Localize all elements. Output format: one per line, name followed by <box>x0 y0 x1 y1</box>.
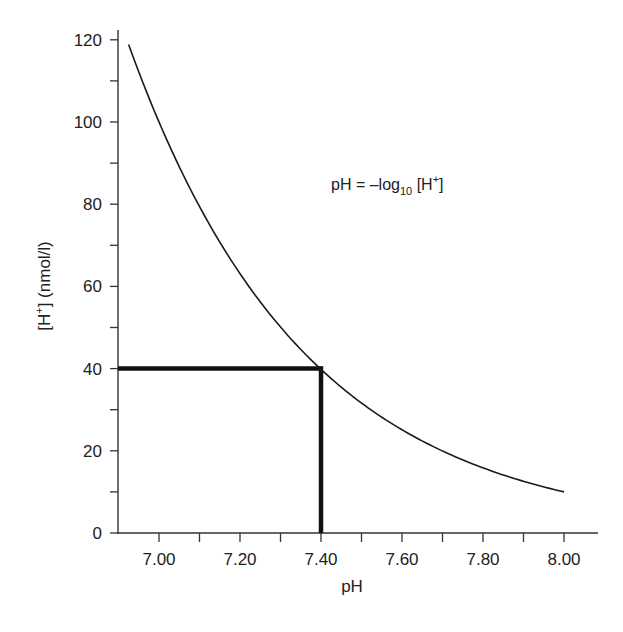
y-tick-label: 80 <box>83 195 102 214</box>
highlight-lines <box>118 367 323 533</box>
y-ticks: 020406080100120 <box>74 31 118 543</box>
annotation-prefix: pH = –log <box>331 176 400 193</box>
x-ticks: 7.007.207.407.607.808.00 <box>142 533 580 569</box>
x-tick-label: 7.60 <box>385 550 418 569</box>
annotation-subscript: 10 <box>400 185 412 197</box>
annotation-middle: [H <box>412 176 432 193</box>
x-tick-label: 8.00 <box>547 550 580 569</box>
y-tick-label: 20 <box>83 442 102 461</box>
axes <box>118 30 598 534</box>
y-axis-title-main: [H <box>35 314 54 331</box>
annotation-suffix: ] <box>439 176 443 193</box>
x-axis-title: pH <box>341 577 363 596</box>
x-tick-label: 7.20 <box>223 550 256 569</box>
chart: 7.007.207.407.607.808.00 020406080100120… <box>0 0 623 632</box>
x-tick-label: 7.40 <box>304 550 337 569</box>
formula-annotation: pH = –log10 [H+] <box>331 173 444 197</box>
x-tick-label: 7.80 <box>466 550 499 569</box>
y-tick-label: 0 <box>93 524 102 543</box>
series <box>129 45 564 492</box>
y-tick-label: 60 <box>83 277 102 296</box>
x-tick-label: 7.00 <box>142 550 175 569</box>
series-line <box>129 45 564 492</box>
y-tick-label: 100 <box>74 113 102 132</box>
y-axis-title: [H+] (nmol/l) <box>33 241 54 331</box>
y-tick-label: 40 <box>83 360 102 379</box>
y-tick-label: 120 <box>74 31 102 50</box>
y-axis-title-rest: ] (nmol/l) <box>35 241 54 307</box>
